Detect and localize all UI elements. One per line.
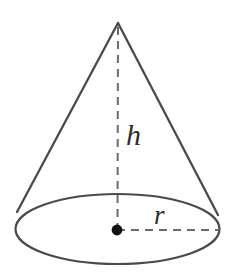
cone-figure: h r bbox=[0, 0, 232, 272]
center-point-icon bbox=[112, 225, 123, 236]
radius-label: r bbox=[154, 202, 165, 229]
cone-diagram-canvas bbox=[0, 0, 232, 272]
height-dashed-line bbox=[118, 27, 119, 229]
cone-slant-left bbox=[17, 23, 118, 212]
height-label: h bbox=[126, 120, 141, 150]
